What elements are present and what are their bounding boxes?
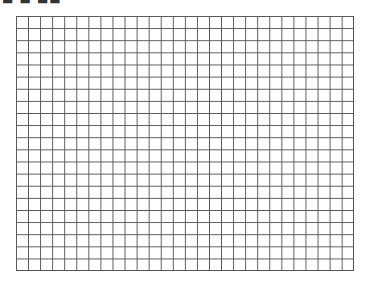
cropped-title-text: ■ ■ ■■ [2,0,62,5]
grid-paper [16,16,354,271]
